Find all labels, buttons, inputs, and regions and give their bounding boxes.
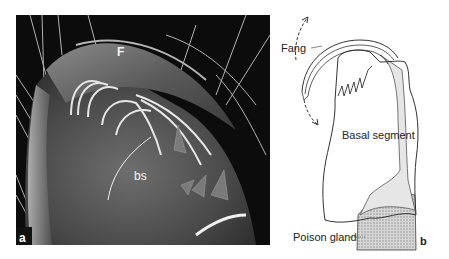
basal-segment-label: Basal segment [342, 129, 415, 141]
diagram-panel: Fang Basal segment Poison gland b [280, 0, 449, 259]
fang-label: F [117, 45, 124, 59]
bs-label: bs [134, 169, 147, 183]
poison-gland-label: Poison gland [293, 231, 357, 243]
fang-label: Fang [281, 42, 306, 54]
sem-photo-panel: bs F a [16, 15, 270, 245]
panel-letter-a: a [19, 231, 26, 245]
panel-letter-b: b [420, 235, 427, 247]
chelicera-diagram: Fang Basal segment Poison gland b [280, 0, 449, 259]
sem-photo: bs F a [16, 15, 270, 245]
